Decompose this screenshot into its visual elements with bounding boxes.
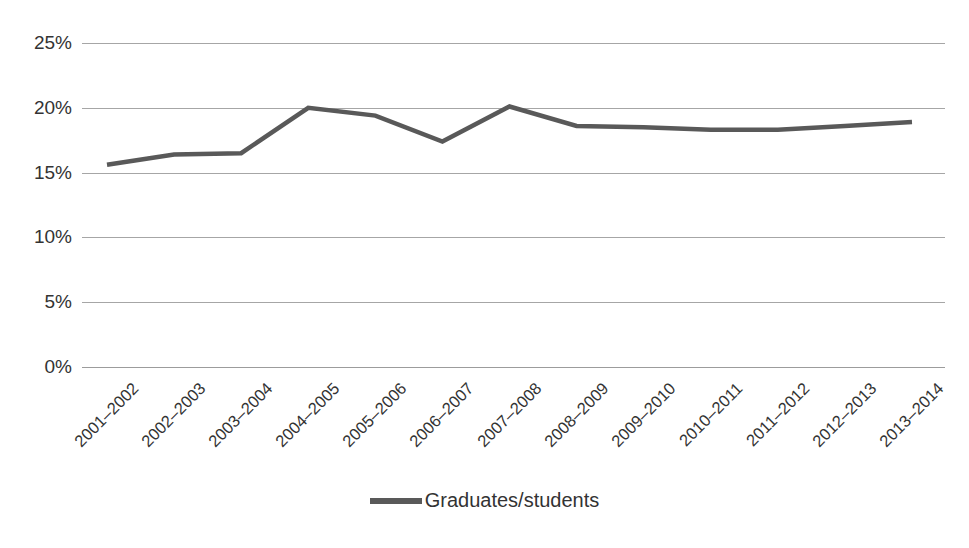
x-axis: 2001–20022002–20032003–20042004–20052005… xyxy=(0,0,969,548)
legend-label: Graduates/students xyxy=(425,489,600,512)
chart-legend: Graduates/students xyxy=(0,489,969,512)
legend-line-swatch-icon xyxy=(370,498,422,504)
legend-item-graduates-students: Graduates/students xyxy=(370,489,600,512)
line-chart: 0%5%10%15%20%25% 2001–20022002–20032003–… xyxy=(0,0,969,548)
